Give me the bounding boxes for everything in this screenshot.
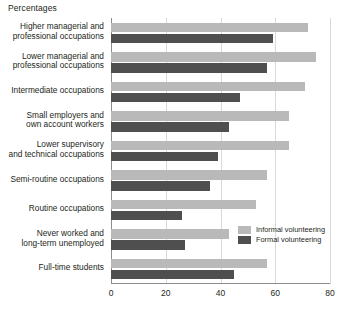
bar-formal [111, 270, 234, 280]
x-tick-80: 80 [325, 288, 334, 298]
category-label: Routine occupations [0, 204, 104, 214]
category-label: Small employers andown account workers [0, 111, 104, 130]
legend-swatch-informal [238, 226, 251, 234]
bar-informal [111, 52, 316, 62]
category-label-line: own account workers [0, 120, 104, 130]
bar-formal [111, 181, 210, 191]
category-label-line: professional occupations [0, 32, 104, 42]
legend-item: Informal volunteering [238, 225, 325, 234]
category-label: Lower managerial andprofessional occupat… [0, 52, 104, 71]
category-label: Never worked andlong-term unemployed [0, 229, 104, 248]
bar-informal [111, 200, 256, 210]
bar-informal [111, 141, 289, 151]
bar-group [111, 200, 330, 221]
x-tick-20: 20 [161, 288, 170, 298]
chart-legend: Informal volunteeringFormal volunteering [238, 225, 325, 245]
bar-formal [111, 152, 218, 162]
chart-container: Percentages Higher managerial andprofess… [0, 0, 349, 311]
bar-informal [111, 82, 305, 92]
bar-formal [111, 211, 182, 221]
category-label: Lower supervisoryand technical occupatio… [0, 140, 104, 159]
bar-informal [111, 229, 229, 239]
category-label: Full-time students [0, 263, 104, 273]
gridline-80 [330, 18, 331, 284]
category-label-line: long-term unemployed [0, 239, 104, 249]
axis-title-percentages: Percentages [8, 3, 57, 13]
x-tick-0: 0 [109, 288, 114, 298]
category-label-line: Routine occupations [0, 204, 104, 214]
bar-group [111, 111, 330, 132]
category-label-line: professional occupations [0, 61, 104, 71]
category-label-line: and technical occupations [0, 150, 104, 160]
category-label-line: Semi-routine occupations [0, 175, 104, 185]
legend-swatch-formal [238, 236, 251, 244]
category-label: Higher managerial andprofessional occupa… [0, 22, 104, 41]
bar-formal [111, 34, 273, 44]
bar-formal [111, 63, 267, 73]
category-axis-labels: Higher managerial andprofessional occupa… [0, 18, 108, 284]
bar-group [111, 82, 330, 103]
x-tick-60: 60 [271, 288, 280, 298]
legend-label: Informal volunteering [256, 225, 325, 234]
bar-informal [111, 259, 267, 269]
category-label-line: Intermediate occupations [0, 86, 104, 96]
bar-group [111, 23, 330, 44]
bar-group [111, 141, 330, 162]
x-axis-line [111, 283, 330, 284]
legend-item: Formal volunteering [238, 235, 325, 244]
bar-group [111, 170, 330, 191]
x-tick-40: 40 [216, 288, 225, 298]
category-label-line: Full-time students [0, 263, 104, 273]
bar-formal [111, 122, 229, 132]
category-label: Intermediate occupations [0, 86, 104, 96]
bar-informal [111, 23, 308, 33]
legend-label: Formal volunteering [256, 235, 321, 244]
category-label: Semi-routine occupations [0, 175, 104, 185]
bar-formal [111, 240, 185, 250]
bar-group [111, 52, 330, 73]
bar-formal [111, 93, 240, 103]
bar-informal [111, 170, 267, 180]
bar-informal [111, 111, 289, 121]
bar-group [111, 259, 330, 280]
